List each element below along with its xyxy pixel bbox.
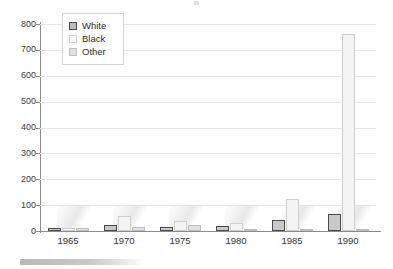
y-tick-label: 700 xyxy=(4,45,36,54)
bar-other-1990 xyxy=(356,229,369,231)
bar-white-1975 xyxy=(160,227,173,231)
x-tick-label-1980: 1980 xyxy=(214,236,258,246)
x-tick-label-1970: 1970 xyxy=(102,236,146,246)
legend-swatch-other-icon xyxy=(69,48,77,56)
bar-chart: 0100200300400500600700800 19651970197519… xyxy=(0,0,393,269)
y-tick-label: 100 xyxy=(4,201,36,210)
legend-item-white: White xyxy=(69,19,117,32)
x-tick-label-1985: 1985 xyxy=(270,236,314,246)
bar-black-1970 xyxy=(118,216,131,231)
bar-group xyxy=(208,24,264,231)
y-tick-label: 300 xyxy=(4,149,36,158)
bar-black-1985 xyxy=(286,199,299,231)
bar-other-1975 xyxy=(188,225,201,231)
bar-other-1985 xyxy=(300,229,313,231)
bar-black-1965 xyxy=(62,228,75,231)
x-axis-line xyxy=(40,231,381,232)
bar-group xyxy=(264,24,320,231)
y-tick-label: 400 xyxy=(4,123,36,132)
legend-swatch-black-icon xyxy=(69,35,77,43)
bar-other-1965 xyxy=(76,228,89,231)
bar-white-1965 xyxy=(48,228,61,231)
bar-black-1975 xyxy=(174,221,187,231)
y-tick-label: 200 xyxy=(4,175,36,184)
x-tick-label-1990: 1990 xyxy=(326,236,370,246)
legend-item-other: Other xyxy=(69,45,117,58)
bar-white-1985 xyxy=(272,220,285,231)
legend-label-white: White xyxy=(82,21,106,31)
bar-white-1980 xyxy=(216,226,229,231)
y-tick-label: 800 xyxy=(4,20,36,29)
bar-white-1970 xyxy=(104,225,117,231)
bar-white-1990 xyxy=(328,214,341,231)
x-tick-label-1965: 1965 xyxy=(46,236,90,246)
bar-other-1980 xyxy=(244,229,257,231)
legend: White Black Other xyxy=(62,13,124,65)
x-tick-label-1975: 1975 xyxy=(158,236,202,246)
y-tick-label: 0 xyxy=(4,227,36,236)
y-tick-label: 600 xyxy=(4,71,36,80)
scan-band-artifact xyxy=(20,259,146,265)
legend-label-black: Black xyxy=(82,34,105,44)
legend-item-black: Black xyxy=(69,32,117,45)
bar-group xyxy=(320,24,376,231)
bar-black-1990 xyxy=(342,34,355,231)
legend-swatch-white-icon xyxy=(69,22,77,30)
y-tick-label: 500 xyxy=(4,97,36,106)
legend-label-other: Other xyxy=(82,47,106,57)
bar-black-1980 xyxy=(230,223,243,231)
bar-other-1970 xyxy=(132,227,145,231)
bar-group xyxy=(152,24,208,231)
